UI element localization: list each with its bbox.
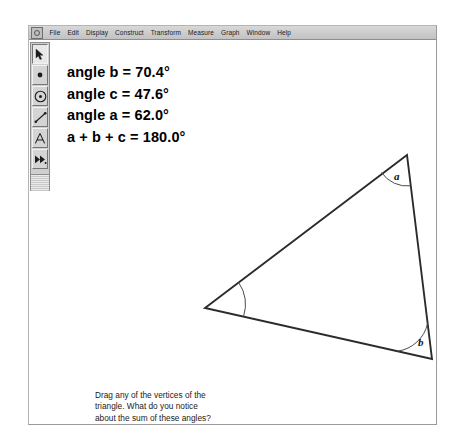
point-tool[interactable] [32, 65, 48, 85]
menu-item-window-label: Window [247, 29, 271, 36]
menu-item-display[interactable]: Display [82, 27, 111, 39]
sketch-canvas[interactable]: angle b = 70.4° angle c = 47.6° angle a … [51, 42, 435, 423]
sketchpad-window: File Edit Display Construct Transform Me… [29, 26, 436, 424]
menu-item-display-label: Display [86, 29, 108, 36]
selection-arrow-tool[interactable] [32, 44, 48, 64]
letter-a-icon [34, 132, 46, 145]
double-arrow-icon [34, 154, 47, 165]
menu-item-transform-label: Transform [151, 29, 181, 36]
menu-item-graph[interactable]: Graph [218, 27, 244, 39]
menu-item-construct-label: Construct [115, 29, 144, 36]
straightedge-tool[interactable] [32, 107, 48, 127]
circle-icon [34, 90, 47, 103]
app-menu-icon[interactable] [31, 27, 43, 39]
menu-item-construct[interactable]: Construct [112, 27, 148, 39]
triangle-figure: a b [51, 42, 435, 423]
caption-line-2: triangle. What do you notice [95, 401, 305, 412]
angle-arc-c [238, 282, 245, 317]
menu-item-window[interactable]: Window [243, 27, 274, 39]
menu-item-measure-label: Measure [188, 29, 214, 36]
triangle-outline[interactable] [205, 155, 432, 359]
menu-item-transform[interactable]: Transform [147, 27, 184, 39]
caption-line-1: Drag any of the vertices of the [95, 390, 305, 401]
menu-item-help-label: Help [277, 29, 291, 36]
menu-item-measure[interactable]: Measure [185, 27, 218, 39]
menu-item-file[interactable]: File [46, 27, 64, 39]
tool-palette [30, 42, 50, 175]
menu-item-file-label: File [50, 29, 61, 36]
menu-item-graph-label: Graph [221, 29, 240, 36]
segment-icon [34, 111, 47, 124]
arrow-icon [34, 48, 46, 61]
point-icon [34, 69, 46, 81]
custom-tool[interactable] [32, 149, 48, 169]
compass-circle-tool[interactable] [32, 86, 48, 106]
menu-item-edit[interactable]: Edit [64, 27, 83, 39]
caption-text[interactable]: Drag any of the vertices of the triangle… [95, 390, 305, 423]
menu-item-edit-label: Edit [67, 29, 79, 36]
angle-label-b: b [418, 336, 424, 348]
menu-bar: File Edit Display Construct Transform Me… [29, 26, 436, 40]
angle-label-a: a [394, 170, 400, 182]
tool-palette-scroll-strip[interactable] [30, 175, 50, 191]
menu-item-help[interactable]: Help [274, 27, 295, 39]
caption-line-3: about the sum of these angles? [95, 413, 305, 423]
text-tool[interactable] [32, 128, 48, 148]
